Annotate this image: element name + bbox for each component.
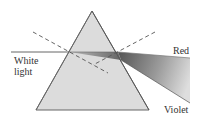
violet-label: Violet	[164, 104, 188, 115]
white-light-label: White light	[14, 55, 44, 77]
prism-dispersion-diagram: White light Red Violet	[0, 0, 206, 120]
red-label: Red	[173, 45, 189, 56]
